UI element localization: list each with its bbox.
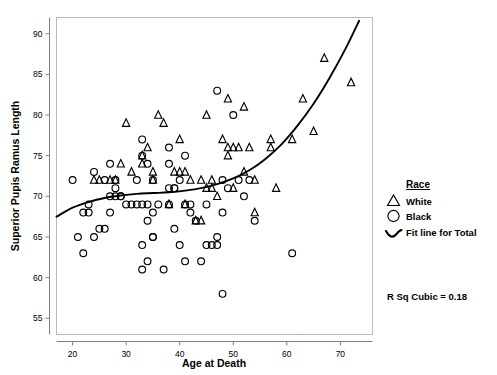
data-point-white (176, 135, 183, 143)
data-point-white (149, 176, 156, 184)
data-point-white (198, 176, 205, 184)
data-point-white (347, 78, 354, 86)
legend-entry-fitline[interactable]: Fit line for Total (386, 227, 477, 238)
data-point-black (182, 152, 189, 159)
y-axis: 5560657075808590 (33, 18, 49, 335)
data-point-white (240, 103, 247, 111)
data-point-black (112, 185, 119, 192)
data-point-white (321, 54, 328, 62)
data-point-black (139, 242, 146, 249)
data-point-black (150, 209, 157, 216)
legend-entry-white[interactable]: White (388, 195, 432, 207)
data-point-white (235, 143, 242, 151)
data-point-black (91, 234, 98, 241)
x-tick-label: 20 (68, 349, 78, 359)
legend-label-black: Black (406, 211, 432, 222)
scatter-plot-figure: 5560657075808590 203040506070 Superior P… (0, 0, 497, 375)
data-point-white (246, 143, 253, 151)
data-point-black (107, 209, 114, 216)
data-point-white (123, 119, 130, 127)
data-point-black (166, 144, 173, 151)
data-point-white (251, 208, 258, 216)
data-point-black (80, 250, 87, 257)
data-point-black (107, 160, 114, 167)
data-point-black (75, 234, 82, 241)
data-point-black (198, 258, 205, 265)
data-point-white (267, 135, 274, 143)
legend: Race White Black Fit line for Total (386, 179, 477, 238)
data-point-white (144, 143, 151, 151)
data-point-black (176, 242, 183, 249)
y-tick-label: 60 (33, 273, 43, 283)
data-point-black (160, 266, 167, 273)
data-series-white (90, 54, 354, 224)
x-tick-label: 70 (336, 349, 346, 359)
y-tick-label: 90 (33, 29, 43, 39)
data-point-white (208, 176, 215, 184)
data-point-black (166, 160, 173, 167)
r-squared-annotation: R Sq Cubic = 0.18 (387, 291, 467, 302)
data-point-black (171, 225, 178, 232)
data-point-black (219, 290, 226, 297)
data-point-black (214, 87, 221, 94)
data-point-black (182, 258, 189, 265)
data-point-black (139, 136, 146, 143)
legend-title: Race (406, 179, 430, 190)
data-point-black (176, 177, 183, 184)
data-point-white (128, 168, 135, 176)
legend-entry-black[interactable]: Black (388, 210, 432, 222)
curve-icon (386, 230, 402, 237)
data-point-white (155, 111, 162, 119)
data-point-white (139, 151, 146, 159)
data-series-black (69, 87, 295, 297)
data-point-black (69, 177, 76, 184)
data-point-white (214, 192, 221, 200)
data-point-white (187, 176, 194, 184)
data-point-black (214, 234, 221, 241)
data-point-white (112, 176, 119, 184)
data-point-white (219, 135, 226, 143)
data-point-white (117, 159, 124, 167)
data-point-black (289, 250, 296, 257)
x-axis: 203040506070 (57, 342, 373, 359)
y-tick-label: 65 (33, 232, 43, 242)
data-point-white (203, 111, 210, 119)
y-tick-label: 55 (33, 313, 43, 323)
data-point-black (187, 209, 194, 216)
data-point-black (139, 266, 146, 273)
data-point-black (230, 112, 237, 119)
data-point-black (150, 234, 157, 241)
data-point-black (203, 201, 210, 208)
data-point-black (144, 217, 151, 224)
data-point-black (155, 201, 162, 208)
x-tick-label: 60 (282, 349, 292, 359)
legend-label-white: White (406, 196, 432, 207)
legend-label-fit-line: Fit line for Total (406, 227, 477, 238)
data-point-white (181, 168, 188, 176)
data-point-black (251, 217, 258, 224)
y-tick-label: 85 (33, 69, 43, 79)
x-tick-label: 30 (121, 349, 131, 359)
data-point-black (144, 258, 151, 265)
data-point-black (91, 169, 98, 176)
data-point-black (241, 193, 248, 200)
data-point-white (149, 168, 156, 176)
y-tick-label: 80 (33, 110, 43, 120)
y-axis-title: Superior Pupis Ramus Length (9, 101, 21, 252)
y-tick-label: 75 (33, 151, 43, 161)
circle-icon (388, 210, 399, 221)
data-point-black (219, 209, 226, 216)
data-point-white (160, 119, 167, 127)
data-point-white (224, 94, 231, 102)
data-point-white (267, 143, 274, 151)
data-point-white (310, 127, 317, 135)
plot-canvas: 5560657075808590 203040506070 Superior P… (0, 0, 497, 375)
x-axis-title: Age at Death (182, 357, 246, 369)
data-point-white (165, 200, 172, 208)
data-point-white (224, 151, 231, 159)
data-point-black (133, 177, 140, 184)
y-tick-label: 70 (33, 191, 43, 201)
triangle-icon (388, 195, 400, 206)
data-point-white (272, 184, 279, 192)
plot-frame (57, 18, 373, 335)
